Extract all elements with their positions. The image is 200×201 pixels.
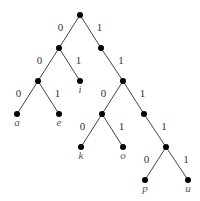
leaf-label: e — [57, 116, 62, 128]
edge-bit-label: 1 — [118, 54, 124, 66]
edge-bit-label: 0 — [16, 87, 22, 99]
internal-node — [98, 45, 104, 51]
leaf-label: a — [14, 116, 20, 128]
binary-tree-diagram: 01011010101101 iaekopu — [0, 0, 200, 201]
edge-bit-label: 1 — [97, 21, 103, 33]
edge-bit-label: 1 — [140, 87, 146, 99]
leaf-label: o — [120, 149, 126, 161]
internal-node — [120, 78, 126, 84]
edge-bit-label: 1 — [76, 54, 82, 66]
leaf-labels: iaekopu — [14, 83, 191, 194]
internal-node — [56, 45, 62, 51]
edge-bit-label: 0 — [80, 120, 86, 132]
internal-node — [141, 111, 147, 117]
edge-bit-label: 1 — [119, 120, 125, 132]
edge-bit-label: 0 — [37, 54, 43, 66]
edge-bit-label: 0 — [101, 87, 107, 99]
leaf-label: k — [79, 149, 85, 161]
leaf-label: i — [78, 83, 81, 95]
edge-bit-label: 1 — [55, 87, 61, 99]
edge-bit-label: 1 — [161, 120, 167, 132]
internal-node — [77, 12, 83, 18]
leaf-label: p — [141, 182, 148, 194]
internal-node — [163, 144, 169, 150]
internal-node — [35, 78, 41, 84]
edge-bit-label: 1 — [183, 153, 189, 165]
leaf-label: u — [185, 182, 191, 194]
edge-bit-label: 0 — [58, 21, 64, 33]
edge-bit-label: 0 — [144, 153, 150, 165]
internal-node — [99, 111, 105, 117]
